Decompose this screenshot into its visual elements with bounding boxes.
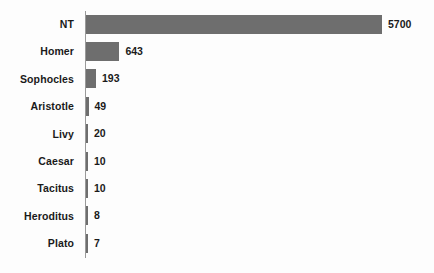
category-label: Tacitus <box>0 175 74 201</box>
bar-wrapper: 643 <box>86 38 143 64</box>
bar-value-label: 49 <box>95 97 107 116</box>
bar <box>86 179 88 198</box>
bar-row: Tacitus 10 <box>0 175 434 201</box>
bar-wrapper: 20 <box>86 121 106 147</box>
category-label: NT <box>0 11 74 37</box>
bar-wrapper: 49 <box>86 93 106 119</box>
bar-value-label: 7 <box>94 234 100 253</box>
bar <box>86 124 88 143</box>
bar-value-label: 193 <box>102 69 120 88</box>
bar-row: Homer 643 <box>0 38 434 64</box>
bar-wrapper: 5700 <box>86 11 411 37</box>
bar-wrapper: 8 <box>86 203 100 229</box>
plot-area: NT 5700 Homer 643 Sophocles 193 Aristotl… <box>0 0 434 273</box>
bar-value-label: 8 <box>94 206 100 225</box>
category-label: Sophocles <box>0 66 74 92</box>
bar-row: Livy 20 <box>0 121 434 147</box>
bar-row: Sophocles 193 <box>0 66 434 92</box>
bar-wrapper: 193 <box>86 66 120 92</box>
bar-value-label: 20 <box>94 124 106 143</box>
bar-value-label: 10 <box>94 179 106 198</box>
bar-value-label: 10 <box>94 152 106 171</box>
bar <box>86 97 89 116</box>
category-label: Heroditus <box>0 203 74 229</box>
bar-value-label: 643 <box>125 42 143 61</box>
bar-row: Plato 7 <box>0 230 434 256</box>
bar <box>86 206 88 225</box>
bar-row: Heroditus 8 <box>0 203 434 229</box>
bar <box>86 234 88 253</box>
category-label: Caesar <box>0 148 74 174</box>
bar-wrapper: 10 <box>86 175 106 201</box>
bar-row: Aristotle 49 <box>0 93 434 119</box>
category-label: Homer <box>0 38 74 64</box>
bar <box>86 152 88 171</box>
bar-value-label: 5700 <box>388 15 411 34</box>
bar <box>86 15 382 34</box>
bar-row: Caesar 10 <box>0 148 434 174</box>
category-label: Plato <box>0 230 74 256</box>
bar <box>86 42 119 61</box>
bar-row: NT 5700 <box>0 11 434 37</box>
bar-wrapper: 7 <box>86 230 100 256</box>
bar-chart: NT 5700 Homer 643 Sophocles 193 Aristotl… <box>0 0 434 273</box>
category-label: Aristotle <box>0 93 74 119</box>
bar-wrapper: 10 <box>86 148 106 174</box>
category-label: Livy <box>0 121 74 147</box>
bar <box>86 69 96 88</box>
